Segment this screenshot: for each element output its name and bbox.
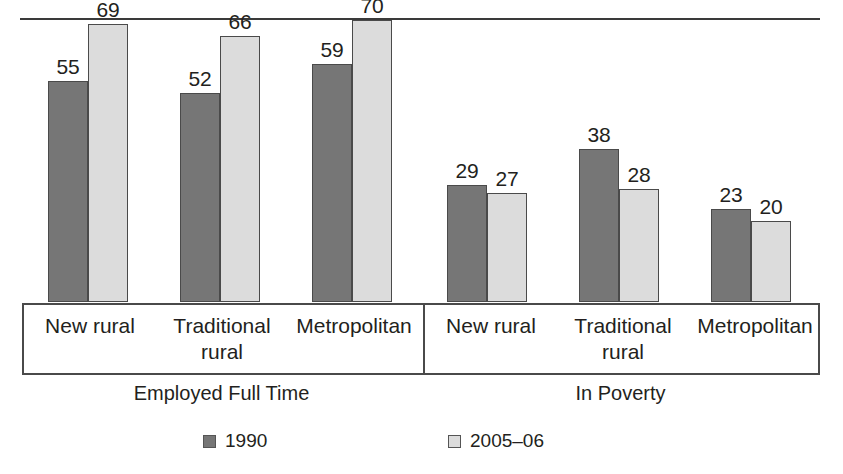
axis-label-box: New rural Traditionalrural Metropolitan … (22, 303, 820, 375)
panel-title-employed-full-time: Employed Full Time (22, 381, 421, 405)
bar-group-metropolitan-poverty: 23 20 (711, 0, 791, 302)
legend-item-1990: 1990 (203, 430, 267, 452)
tick-label-new-rural-poverty: New rural (416, 313, 566, 339)
bar-1990-traditional-rural (180, 93, 220, 302)
panel-employed-full-time: 55 69 52 66 59 70 (22, 0, 421, 305)
tick-label-traditional-rural: Traditionalrural (147, 313, 297, 365)
bar-value-1990-traditional-rural: 52 (177, 68, 223, 89)
bar-value-1990-traditional-rural-poverty: 38 (576, 124, 622, 145)
legend-swatch-1990-icon (203, 435, 216, 448)
plot-area: 55 69 52 66 59 70 29 27 (0, 0, 843, 305)
bar-value-2005-06-metropolitan-poverty: 20 (748, 196, 794, 217)
bar-chart-figure: 55 69 52 66 59 70 29 27 (0, 0, 843, 474)
panel-title-in-poverty: In Poverty (421, 381, 820, 405)
bar-value-2005-06-metropolitan: 70 (349, 0, 395, 16)
bar-1990-new-rural-poverty (447, 185, 487, 302)
tick-label-new-rural: New rural (15, 313, 165, 339)
legend-label-2005-06: 2005–06 (470, 430, 544, 452)
bar-value-1990-metropolitan: 59 (309, 39, 355, 60)
chart-legend: 1990 2005–06 (0, 430, 843, 460)
tick-label-traditional-rural-poverty: Traditionalrural (548, 313, 698, 365)
bar-1990-traditional-rural-poverty (579, 149, 619, 302)
legend-swatch-2005-06-icon (448, 435, 461, 448)
bar-value-2005-06-traditional-rural-poverty: 28 (616, 164, 662, 185)
legend-label-1990: 1990 (225, 430, 267, 452)
bar-1990-metropolitan (312, 64, 352, 302)
tick-labels-in-poverty: New rural Traditionalrural Metropolitan (425, 305, 824, 373)
bar-value-1990-new-rural: 55 (45, 56, 91, 77)
bar-value-2005-06-traditional-rural: 66 (217, 11, 263, 32)
bar-group-metropolitan: 59 70 (312, 0, 392, 302)
bar-2005-06-new-rural-poverty (487, 193, 527, 302)
legend-item-2005-06: 2005–06 (448, 430, 544, 452)
bar-group-traditional-rural: 52 66 (180, 0, 260, 302)
bar-1990-new-rural (48, 81, 88, 302)
tick-label-metropolitan: Metropolitan (279, 313, 429, 339)
bar-2005-06-traditional-rural (220, 36, 260, 302)
bar-1990-metropolitan-poverty (711, 209, 751, 302)
bar-2005-06-metropolitan-poverty (751, 221, 791, 302)
tick-labels-employed-full-time: New rural Traditionalrural Metropolitan (24, 305, 423, 373)
bar-2005-06-metropolitan (352, 20, 392, 302)
bar-2005-06-new-rural (88, 24, 128, 302)
bar-group-traditional-rural-poverty: 38 28 (579, 0, 659, 302)
bar-group-new-rural-poverty: 29 27 (447, 0, 527, 302)
panel-in-poverty: 29 27 38 28 23 20 (421, 0, 820, 305)
bar-value-2005-06-new-rural-poverty: 27 (484, 168, 530, 189)
bar-value-2005-06-new-rural: 69 (85, 0, 131, 20)
tick-label-metropolitan-poverty: Metropolitan (680, 313, 830, 339)
bar-group-new-rural: 55 69 (48, 0, 128, 302)
bar-2005-06-traditional-rural-poverty (619, 189, 659, 302)
